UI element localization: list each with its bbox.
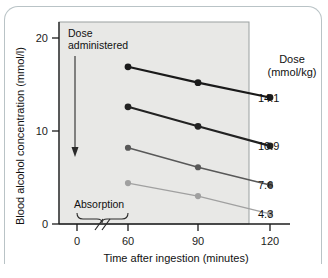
series-label-14.1: 14.1 [258, 92, 279, 104]
y-tick-label-10: 10 [36, 125, 48, 137]
data-point-7.6-90[interactable] [195, 164, 201, 170]
y-axis-title: Blood alcohol concentration (mmol/l) [14, 47, 26, 225]
data-point-14.1-60[interactable] [125, 63, 132, 70]
series-label-4.3: 4.3 [258, 208, 273, 220]
x-tick-label-90: 90 [192, 235, 204, 247]
data-point-4.3-90[interactable] [195, 193, 201, 199]
x-tick-label-120: 120 [261, 235, 279, 247]
legend-title-line2: (mmol/kg) [268, 66, 317, 78]
figure-card: 20 10 0 Blood alcohol concentration (mmo… [0, 0, 328, 278]
data-point-10.9-90[interactable] [195, 123, 202, 130]
blood-alcohol-concentration-chart: 20 10 0 Blood alcohol concentration (mmo… [0, 0, 328, 278]
x-axis-title: Time after ingestion (minutes) [103, 252, 248, 264]
series-label-7.6: 7.6 [258, 179, 273, 191]
series-label-10.9: 10.9 [258, 140, 279, 152]
legend-title-line1: Dose [279, 53, 305, 65]
x-tick-label-0: 0 [74, 235, 80, 247]
data-point-14.1-90[interactable] [195, 79, 202, 86]
y-tick-label-20: 20 [36, 32, 48, 44]
plot-area-background [59, 22, 249, 224]
y-tick-label-0: 0 [42, 218, 48, 230]
data-point-7.6-60[interactable] [125, 145, 131, 151]
dose-administered-label-line1: Dose [68, 27, 93, 39]
legend-labels: 14.110.97.64.3 [258, 92, 279, 220]
absorption-label: Absorption [74, 198, 124, 210]
dose-administered-label-line2: administered [68, 39, 128, 51]
data-point-10.9-60[interactable] [125, 103, 132, 110]
x-tick-label-60: 60 [122, 235, 134, 247]
data-point-4.3-60[interactable] [125, 180, 131, 186]
